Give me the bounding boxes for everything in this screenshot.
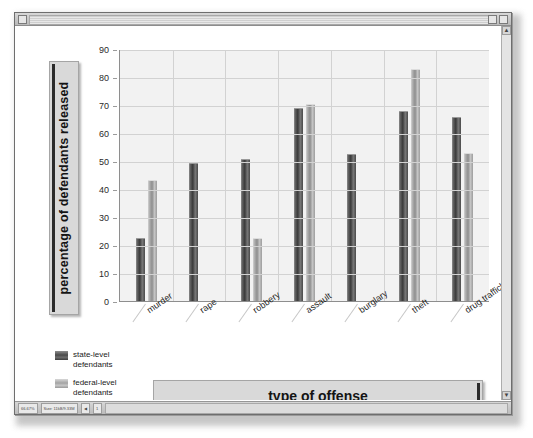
status-prev-page-icon[interactable]: ◀: [81, 403, 90, 414]
vertical-gridline: [384, 50, 385, 301]
vertical-gridline: [331, 50, 332, 301]
scroll-down-icon[interactable]: ▼: [502, 391, 511, 400]
gridline: [120, 218, 489, 219]
bar-group: [173, 50, 226, 301]
bar-group: [120, 50, 173, 301]
window-titlebar[interactable]: [15, 13, 511, 26]
bar-state: [399, 111, 408, 301]
vertical-gridline: [436, 50, 437, 301]
y-tick-mark: [113, 50, 117, 51]
y-tick-label: 30: [99, 213, 109, 223]
status-bar: 66.67% Size: 11kB/9.33M ◀ 1: [15, 401, 511, 414]
y-tick-label: 50: [99, 157, 109, 167]
legend-label-state: state-level defendants: [73, 350, 113, 369]
y-tick-mark: [113, 162, 117, 163]
window-controls[interactable]: [488, 15, 508, 24]
vertical-gridline: [225, 50, 226, 301]
legend-swatch-state-icon: [55, 351, 68, 360]
status-zoom[interactable]: 66.67%: [18, 403, 38, 414]
x-tick-cell: drug trafficking: [436, 304, 489, 364]
gridline: [120, 162, 489, 163]
bar-groups: [120, 50, 489, 301]
legend-label-federal-line2: defendants: [73, 388, 117, 398]
status-size: Size: 11kB/9.33M: [41, 403, 78, 414]
y-axis-title-box: percentage of defendants released: [49, 61, 79, 315]
bar-group: [436, 50, 489, 301]
legend-label-state-line2: defendants: [73, 360, 113, 370]
bar-federal: [148, 180, 157, 301]
x-tick-mark: [450, 304, 463, 323]
presentation-window: percentage of defendants released 010203…: [14, 12, 512, 415]
chart-plot-area: 0102030405060708090 murderraperobberyass…: [89, 50, 489, 322]
x-tick-cell: rape: [172, 304, 225, 364]
y-axis-title: percentage of defendants released: [50, 62, 78, 314]
y-tick-mark: [113, 302, 117, 303]
bar-state: [189, 163, 198, 301]
restore-icon[interactable]: [488, 15, 497, 24]
slide-page: percentage of defendants released 010203…: [0, 0, 533, 438]
bar-federal: [411, 69, 420, 301]
legend-swatch-federal-icon: [55, 379, 68, 388]
gridline: [120, 78, 489, 79]
status-page-number[interactable]: 1: [93, 403, 102, 414]
y-tick-mark: [113, 78, 117, 79]
slide-canvas: percentage of defendants released 010203…: [15, 26, 511, 400]
status-filler: [105, 403, 508, 414]
bar-state: [241, 159, 250, 301]
x-tick-cell: assault: [278, 304, 331, 364]
y-tick-label: 20: [99, 241, 109, 251]
y-tick-mark: [113, 246, 117, 247]
gridline: [120, 190, 489, 191]
bar-group: [278, 50, 331, 301]
vertical-gridline: [173, 50, 174, 301]
y-tick-label: 0: [104, 297, 109, 307]
y-tick-mark: [113, 218, 117, 219]
y-tick-mark: [113, 134, 117, 135]
x-axis-title: type of offense: [268, 388, 368, 400]
plot-canvas: [119, 50, 489, 302]
y-tick-mark: [113, 190, 117, 191]
vertical-gridline: [278, 50, 279, 301]
window-menu-icon[interactable]: [18, 15, 27, 24]
y-tick-mark: [113, 274, 117, 275]
y-tick-label: 40: [99, 185, 109, 195]
bar-state: [294, 108, 303, 301]
legend-label-federal-line1: federal-level: [73, 378, 117, 388]
gridline: [120, 50, 489, 51]
bar-state: [136, 238, 145, 301]
gridline: [120, 246, 489, 247]
gridline: [120, 274, 489, 275]
legend-item-state: state-level defendants: [55, 350, 175, 369]
vertical-scrollbar[interactable]: ▲ ▼: [501, 26, 511, 400]
x-axis-title-box: type of offense: [153, 380, 483, 400]
bar-state: [347, 154, 356, 301]
gridline: [120, 106, 489, 107]
x-tick-cell: burglary: [330, 304, 383, 364]
gridline: [120, 134, 489, 135]
legend-label-federal: federal-level defendants: [73, 378, 117, 397]
bar-federal: [464, 153, 473, 301]
bar-federal: [253, 238, 262, 301]
y-tick-label: 10: [99, 269, 109, 279]
close-icon[interactable]: [499, 15, 508, 24]
scroll-up-icon[interactable]: ▲: [502, 26, 511, 35]
legend-label-state-line1: state-level: [73, 350, 113, 360]
bar-group: [225, 50, 278, 301]
y-tick-label: 60: [99, 129, 109, 139]
bar-group: [331, 50, 384, 301]
y-tick-label: 90: [99, 45, 109, 55]
chart-slide: percentage of defendants released 010203…: [25, 32, 497, 396]
x-tick-cell: theft: [383, 304, 436, 364]
x-tick-cell: robbery: [225, 304, 278, 364]
y-tick-label: 70: [99, 101, 109, 111]
x-tick-mark: [397, 304, 410, 323]
bar-group: [384, 50, 437, 301]
y-tick-label: 80: [99, 73, 109, 83]
y-tick-mark: [113, 106, 117, 107]
y-axis-ticks: 0102030405060708090: [89, 50, 113, 302]
titlebar-texture: [29, 15, 489, 25]
